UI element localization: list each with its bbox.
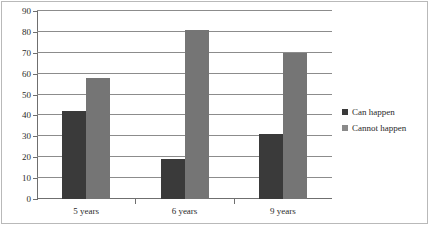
y-tick-mark <box>33 178 37 179</box>
x-axis-label: 5 years <box>73 207 99 216</box>
x-tick-mark <box>234 199 235 204</box>
bar <box>283 53 307 199</box>
legend-label: Cannot happen <box>352 124 406 133</box>
x-tick-mark <box>135 199 136 204</box>
bar <box>86 78 110 199</box>
y-tick-label: 40 <box>0 111 31 120</box>
bar <box>62 111 86 199</box>
legend-label: Can happen <box>352 108 395 117</box>
y-tick-label: 10 <box>0 174 31 183</box>
x-axis-label: 9 years <box>270 207 296 216</box>
bar <box>185 30 209 199</box>
legend-item[interactable]: Cannot happen <box>342 120 426 136</box>
bar <box>161 159 185 199</box>
y-tick-label: 80 <box>0 27 31 36</box>
gridline <box>37 10 332 11</box>
y-tick-mark <box>33 157 37 158</box>
y-tick-label: 90 <box>0 7 31 16</box>
y-tick-mark <box>33 95 37 96</box>
y-tick-label: 20 <box>0 153 31 162</box>
y-tick-mark <box>33 53 37 54</box>
y-tick-label: 60 <box>0 69 31 78</box>
legend-swatch-icon <box>342 109 348 115</box>
y-tick-mark <box>33 136 37 137</box>
bar-chart-figure: 0102030405060708090 5 years6 years9 year… <box>0 0 430 226</box>
y-tick-mark <box>33 74 37 75</box>
x-axis-label: 6 years <box>172 207 198 216</box>
legend-item[interactable]: Can happen <box>342 104 426 120</box>
y-tick-label: 70 <box>0 48 31 57</box>
y-tick-mark <box>33 115 37 116</box>
y-tick-label: 30 <box>0 132 31 141</box>
x-axis-categories: 5 years6 years9 years <box>37 199 332 225</box>
y-tick-label: 50 <box>0 90 31 99</box>
plot-area <box>37 11 332 199</box>
y-tick-label: 0 <box>0 195 31 204</box>
y-tick-mark <box>33 32 37 33</box>
legend-swatch-icon <box>342 125 348 131</box>
chart-legend: Can happenCannot happen <box>342 104 426 136</box>
y-tick-mark <box>33 11 37 12</box>
bar <box>259 134 283 199</box>
